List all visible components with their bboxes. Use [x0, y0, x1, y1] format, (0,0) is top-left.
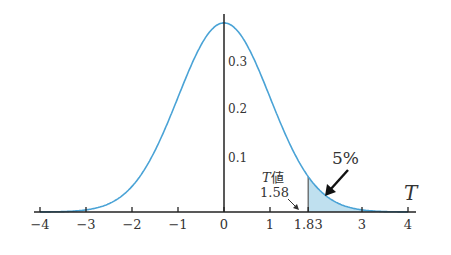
- x-tick-label: 4: [404, 217, 412, 232]
- t-value-number: 1.58: [260, 185, 289, 200]
- x-tick-label: 3: [358, 217, 366, 232]
- x-tick-label: −4: [30, 217, 49, 232]
- t-value-annotation: T値: [262, 170, 284, 185]
- t-distribution-chart: −4−3−2−1011.8334 0.3 0.2 0.1 T値 1.58 5% …: [0, 0, 451, 255]
- x-tick-label: −2: [122, 217, 141, 232]
- x-tick-label: 1: [266, 217, 274, 232]
- y-tick-label: 0.1: [228, 151, 247, 165]
- x-tick-label: 1.83: [294, 217, 323, 232]
- percent-arrow: [330, 170, 348, 190]
- y-tick-label: 0.2: [228, 102, 247, 116]
- y-tick-label: 0.3: [228, 55, 247, 69]
- x-tick-label: 0: [220, 217, 228, 232]
- x-axis-title: T: [404, 181, 419, 205]
- x-tick-label: −1: [168, 217, 187, 232]
- x-tick-label: −3: [76, 217, 95, 232]
- percent-label: 5%: [332, 148, 359, 168]
